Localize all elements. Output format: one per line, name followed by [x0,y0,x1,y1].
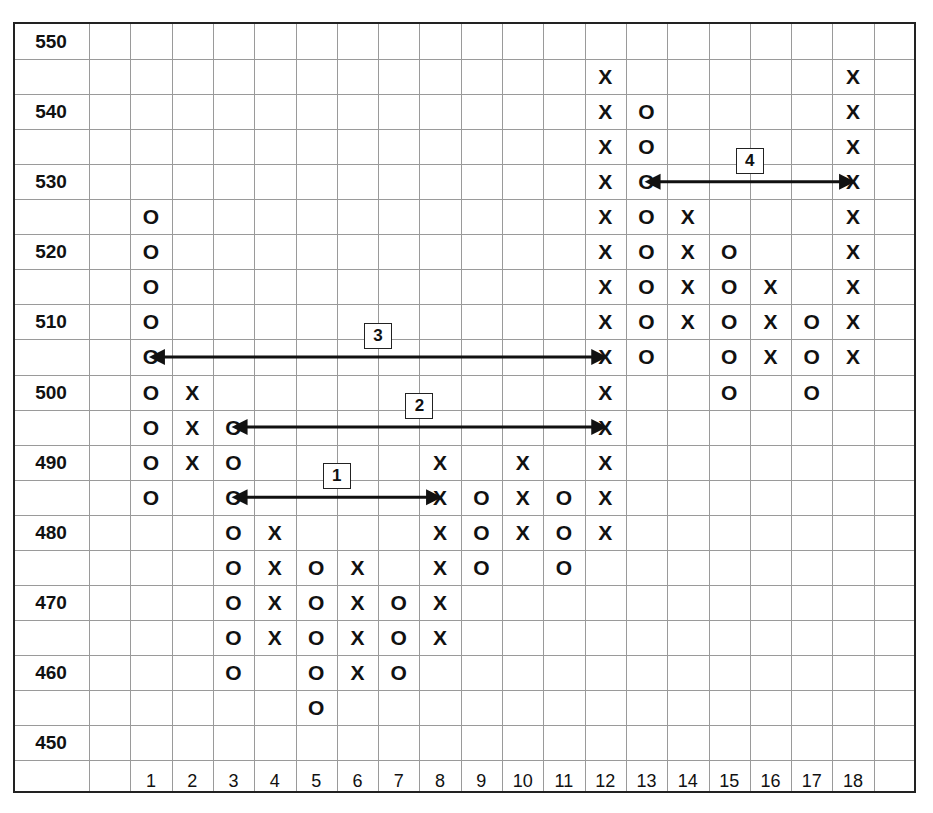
arrowhead-right-icon [839,174,855,190]
count-label-box: 3 [364,323,392,349]
arrowhead-right-icon [591,349,607,365]
count-label-box: 2 [405,393,433,419]
point-and-figure-chart: 550540530520510500490480470460450 123456… [13,22,916,793]
arrowhead-right-icon [591,419,607,435]
arrowhead-left-icon [645,174,661,190]
count-label-box: 1 [323,463,351,489]
arrowhead-left-icon [232,419,248,435]
count-arrows [15,24,918,795]
arrowhead-left-icon [149,349,165,365]
arrowhead-right-icon [426,489,442,505]
count-label-box: 4 [736,148,764,174]
arrowhead-left-icon [232,489,248,505]
